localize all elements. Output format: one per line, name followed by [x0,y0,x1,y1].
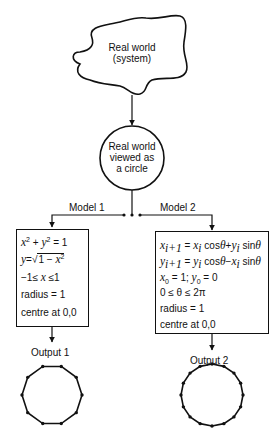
polygon-vertex [60,365,63,368]
sqrt-body: 1 − x2 [37,253,64,265]
polygon-vertex [75,376,78,379]
fn: sin [240,256,256,267]
model1-eq-line5: centre at 0,0 [21,306,77,320]
op: + [30,237,41,248]
circle-view-line3: a circle [100,163,164,174]
polygon-vertex [179,393,182,396]
polygon-vertex [60,422,63,425]
real-world-line2: (system) [102,53,162,64]
circle-view-label: Real world viewed as a circle [100,141,164,174]
model2-eq-line6: centre at 0,0 [160,318,216,332]
polygon-vertex [232,415,235,418]
circle-view-line2: viewed as [100,152,164,163]
theta: θ [255,255,261,267]
op: = [182,240,193,251]
model1-eq-line4: radius = 1 [21,288,65,302]
model2-label: Model 2 [160,202,196,213]
polygon-vertex [188,415,191,418]
branch-dot-center [130,213,133,216]
model2-eq-line2: yi+1 = yi cosθ−xi sinθ [160,254,261,269]
polygon-vertex [26,411,29,414]
fn: cos [202,240,220,251]
polygon-vertex [41,422,44,425]
polygon-vertex [239,381,242,384]
polygon-vertex [239,405,242,408]
output1-label: Output 1 [31,347,69,358]
polygon-vertex [198,422,201,425]
theta: θ [255,239,261,251]
polygon-outline [22,366,82,423]
value: = 1; [169,272,192,283]
model2-eq-line3: x0 = 1; y0 = 0 [160,270,218,285]
model1-label: Model 1 [69,202,105,213]
op: = [182,256,193,267]
sqrt-sign: =√ [26,254,37,265]
exp: 2 [61,253,65,260]
polygon-vertex [182,381,185,384]
idx: i+1 [165,258,182,270]
fn: cos [202,256,220,267]
model1-equation-box: x2 + y2 = 1 y=√1 − x2 −1≤ x ≤1 radius = … [16,229,89,327]
polygon-vertex [20,393,23,396]
model2-branch-line [140,215,212,230]
lower: −1≤ [21,272,41,283]
circle-view-line1: Real world [100,141,164,152]
polygon-vertex [232,371,235,374]
polygon-vertex [182,405,185,408]
model1-eq-line3: −1≤ x ≤1 [21,270,60,285]
model1-eq-line2: y=√1 − x2 [21,252,64,267]
model1-branch-line [52,215,124,227]
polygon-vertex [241,393,244,396]
output1-polygon [20,365,83,425]
value: = 0 [201,272,218,283]
model2-eq-line4: 0 ≤ θ ≤ 2π [160,286,206,300]
upper: ≤1 [46,272,60,283]
output2-label: Output 2 [190,355,228,366]
polygon-vertex [75,411,78,414]
real-world-label: Real world (system) [102,42,162,64]
diagram-canvas [0,0,280,444]
polygon-vertex [222,422,225,425]
polygon-vertex [188,371,191,374]
model2-equation-box: xi+1 = xi cosθ+yi sinθ yi+1 = yi cosθ−xi… [155,231,269,334]
rhs: = 1 [50,237,67,248]
fn: sin [240,240,256,251]
model2-eq-line1: xi+1 = xi cosθ+yi sinθ [160,238,261,253]
model2-eq-line5: radius = 1 [160,302,204,316]
model1-eq-line1: x2 + y2 = 1 [21,235,67,250]
polygon-vertex [41,365,44,368]
real-world-line1: Real world [102,42,162,53]
polygon-vertex [210,424,213,427]
polygon-vertex [80,393,83,396]
term: 1 − [38,254,55,265]
idx: i+1 [165,242,182,254]
output2-polygon [179,362,244,427]
polygon-vertex [26,376,29,379]
